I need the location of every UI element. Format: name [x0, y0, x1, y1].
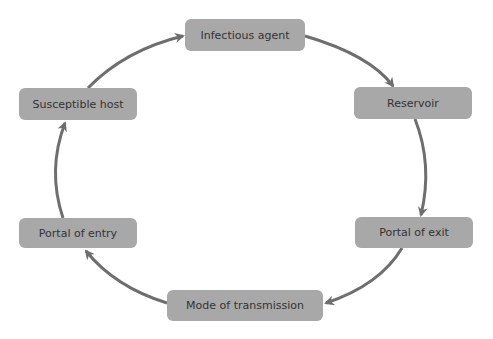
node-label: Mode of transmission [186, 299, 304, 312]
arrow-host-to-agent [88, 36, 183, 88]
node-susceptible-host: Susceptible host [19, 88, 137, 120]
node-label: Reservoir [387, 97, 439, 110]
node-reservoir: Reservoir [354, 87, 472, 119]
node-infectious-agent: Infectious agent [185, 19, 305, 51]
node-portal-of-exit: Portal of exit [355, 217, 473, 248]
node-label: Susceptible host [33, 98, 124, 111]
arrow-reservoir-to-exit [415, 119, 426, 215]
node-label: Portal of exit [379, 226, 449, 239]
node-mode-of-transmission: Mode of transmission [167, 290, 323, 321]
arrow-transmission-to-entry [86, 251, 167, 303]
arrow-entry-to-host [55, 123, 65, 218]
node-label: Portal of entry [39, 227, 117, 240]
arrow-exit-to-transmission [326, 248, 402, 303]
node-label: Infectious agent [201, 29, 290, 42]
arrow-agent-to-reservoir [305, 36, 393, 86]
node-portal-of-entry: Portal of entry [19, 218, 137, 248]
